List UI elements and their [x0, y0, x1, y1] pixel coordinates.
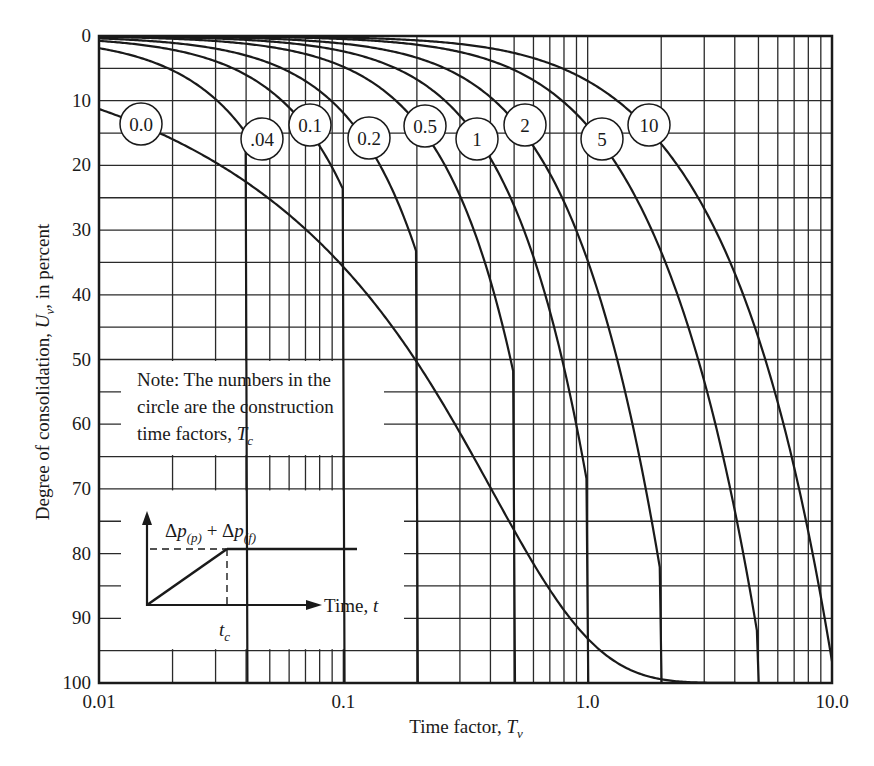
y-tick-label: 40 [72, 284, 91, 305]
y-tick-label: 100 [63, 672, 92, 693]
y-tick-label: 80 [72, 543, 91, 564]
y-tick-label: 70 [72, 478, 91, 499]
tc-circle-0p0: 0.0 [120, 103, 162, 145]
circle-label: 1 [472, 129, 482, 150]
circle-label: 10 [640, 115, 659, 136]
consolidation-chart: 0.0.040.10.20.512510 0102030405060708090… [0, 0, 874, 766]
y-tick-label: 60 [72, 413, 91, 434]
circle-label: 0.2 [357, 128, 381, 149]
circle-label: 0.5 [413, 116, 437, 137]
x-axis-title: Time factor, Tv [409, 716, 523, 741]
tc-circle-5: 5 [581, 118, 623, 160]
note-line-2: circle are the construction [137, 396, 334, 417]
y-tick-label: 90 [72, 607, 91, 628]
note-line-1: Note: The numbers in the [137, 369, 331, 390]
tc-circle-1: 1 [456, 118, 498, 160]
y-tick-labels: 0102030405060708090100 [63, 25, 92, 693]
x-tick-labels: 0.010.11.010.0 [82, 691, 848, 712]
y-tick-label: 30 [72, 219, 91, 240]
tc-circle-0p2: 0.2 [348, 117, 390, 159]
x-tick-label: 0.1 [331, 691, 355, 712]
x-tick-label: 0.01 [82, 691, 115, 712]
inset-mask [121, 490, 404, 649]
x-tick-label: 10.0 [815, 691, 848, 712]
y-tick-label: 20 [72, 154, 91, 175]
tc-circle-10: 10 [628, 104, 670, 146]
y-tick-label: 0 [82, 25, 92, 46]
tc-circle-2: 2 [504, 104, 546, 146]
inset-time-label: Time, t [324, 595, 379, 616]
tc-circle-p04: .04 [241, 118, 283, 160]
y-tick-label: 50 [72, 349, 91, 370]
circle-label: 0.1 [298, 115, 322, 136]
x-tick-label: 1.0 [576, 691, 600, 712]
y-tick-label: 10 [72, 90, 91, 111]
y-axis-title: Degree of consolidation, Uv, in percent [32, 223, 57, 520]
circle-label: .04 [250, 129, 274, 150]
circle-label: 2 [520, 115, 530, 136]
tc-circle-0p5: 0.5 [404, 105, 446, 147]
circle-label: 5 [597, 129, 607, 150]
note-stub-area [100, 361, 121, 455]
tc-circle-0p1: 0.1 [289, 104, 331, 146]
circle-label: 0.0 [129, 114, 153, 135]
